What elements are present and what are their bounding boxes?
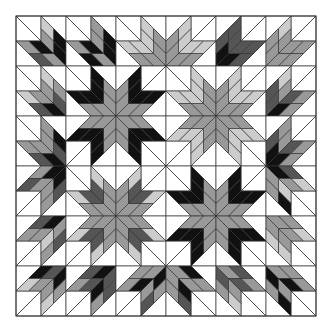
quilt-block [266,66,316,116]
quilt-block [66,216,116,266]
quilt-block [166,166,216,216]
quilt-blocks [16,16,316,316]
quilt-block [66,266,116,316]
quilt-block [66,166,116,216]
quilt-block [216,116,266,166]
quilt-block [216,166,266,216]
quilt-block [66,116,116,166]
quilt-block [16,116,66,166]
quilt-block [66,66,116,116]
quilt-block [116,116,166,166]
quilt-block [16,166,66,216]
quilt-block [216,16,266,66]
quilt-block [266,266,316,316]
quilt-block [266,166,316,216]
quilt-block [216,266,266,316]
quilt-block [116,216,166,266]
quilt-block [166,216,216,266]
quilt-block [166,116,216,166]
quilt-block [66,16,116,66]
quilt-block [116,266,166,316]
quilt-block [116,66,166,116]
quilt-block [166,66,216,116]
quilt-block [16,16,66,66]
quilt-block [216,66,266,116]
quilt-block [166,266,216,316]
quilt-block [16,266,66,316]
quilt-block [166,16,216,66]
quilt-block [216,216,266,266]
quilt-block [266,116,316,166]
quilt-block [266,216,316,266]
quilt-block [116,166,166,216]
quilt-block [116,16,166,66]
quilt-diagram [0,0,328,327]
quilt-block [266,16,316,66]
quilt-block [16,66,66,116]
quilt-block [16,216,66,266]
